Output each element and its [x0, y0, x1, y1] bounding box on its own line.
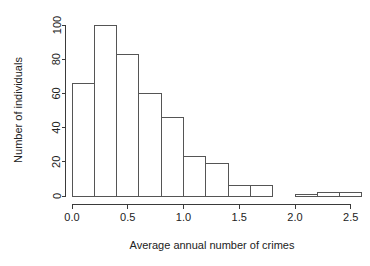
chart-canvas: 020406080100 0.00.51.01.52.02.5 Number o…	[0, 0, 370, 266]
histogram-bar	[117, 54, 139, 196]
y-axis-title: Number of individuals	[12, 57, 24, 163]
histogram-bar	[161, 117, 183, 196]
x-axis-title: Average annual number of crimes	[130, 239, 295, 251]
y-axis-tick-label: 80	[51, 53, 63, 65]
x-axis-tick-label: 0.0	[64, 211, 79, 223]
histogram-bar	[340, 193, 362, 196]
y-axis-tick-label: 100	[51, 16, 63, 34]
y-axis-tick-label: 60	[51, 87, 63, 99]
histogram-bar	[72, 83, 94, 196]
histogram-bar	[139, 93, 161, 196]
histogram-bar	[94, 25, 116, 196]
histogram-bar	[206, 164, 228, 196]
y-axis-tick-label: 20	[51, 156, 63, 168]
histogram-chart: 020406080100 0.00.51.01.52.02.5 Number o…	[0, 0, 370, 266]
y-axis-tick-label: 0	[51, 193, 63, 199]
histogram-bar	[317, 193, 339, 196]
histogram-bar	[228, 186, 250, 196]
x-axis-tick-label: 2.0	[287, 211, 302, 223]
histogram-bar	[184, 157, 206, 196]
x-axis-tick-label: 1.0	[176, 211, 191, 223]
histogram-bar	[250, 186, 272, 196]
x-axis-tick-label: 0.5	[120, 211, 135, 223]
x-axis-tick-label: 1.5	[232, 211, 247, 223]
histogram-bar	[295, 194, 317, 196]
x-axis-tick-label: 2.5	[343, 211, 358, 223]
y-axis-tick-label: 40	[51, 121, 63, 133]
